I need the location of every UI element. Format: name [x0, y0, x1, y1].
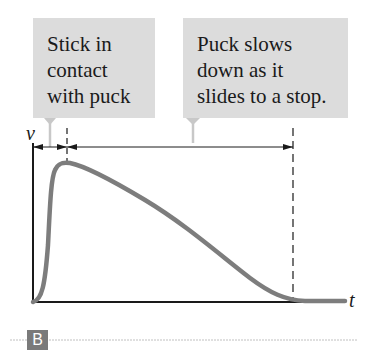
panel-label-badge: B — [27, 330, 48, 350]
interval-arrow-sliding — [67, 144, 293, 150]
y-axis-label: v — [26, 122, 35, 144]
velocity-graph: v t — [0, 0, 366, 362]
x-axis-label: t — [349, 289, 355, 311]
velocity-curve — [33, 163, 345, 302]
callout-pointer-2 — [186, 118, 200, 143]
callout-pointer-1 — [44, 118, 56, 147]
